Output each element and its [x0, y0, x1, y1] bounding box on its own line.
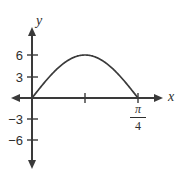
y-axis-label: y: [36, 14, 42, 28]
y-tick-label-3: 3: [4, 71, 23, 84]
y-tick-label-minus-3: −3: [1, 113, 23, 126]
y-axis-bottom-arrow-icon: [28, 160, 36, 169]
x-axis-right-arrow-icon: [154, 94, 163, 102]
graph-figure: 6 3 −3 −6 y x π 4: [0, 0, 183, 177]
fraction-denominator-4: 4: [130, 119, 146, 133]
sine-curve: [32, 55, 138, 98]
x-axis-left-arrow-icon: [11, 94, 20, 102]
y-tick-label-6: 6: [4, 49, 23, 62]
y-tick-label-minus-6: −6: [1, 134, 23, 147]
x-axis-label: x: [168, 90, 174, 104]
fraction-bar: [130, 117, 146, 118]
fraction-numerator-pi: π: [130, 103, 146, 117]
y-axis-top-arrow-icon: [28, 27, 36, 36]
plot-canvas: [0, 0, 183, 177]
x-tick-label-pi-over-4: π 4: [130, 103, 146, 132]
